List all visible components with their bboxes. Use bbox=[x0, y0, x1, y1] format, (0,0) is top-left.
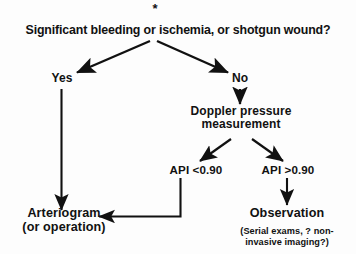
arteriogram-line-2: (or operation) bbox=[0, 221, 128, 235]
footnote-asterisk: * bbox=[0, 2, 310, 15]
arteriogram-line-1: Arteriogram bbox=[27, 206, 100, 220]
observation-caption-line-1: (Serial exams, ? non- bbox=[222, 226, 352, 237]
observation-node: Observation bbox=[224, 207, 350, 221]
edge-doppler-to-api-low bbox=[200, 139, 231, 161]
doppler-node: Doppler pressure measurement bbox=[170, 105, 312, 131]
arteriogram-node: Arteriogram (or operation) bbox=[0, 207, 128, 234]
observation-caption: (Serial exams, ? non- invasive imaging?) bbox=[222, 226, 352, 248]
branch-label-yes: Yes bbox=[34, 72, 90, 85]
decision-flowchart: * Significant bleeding or ischemia, or s… bbox=[0, 0, 356, 254]
root-question: Significant bleeding or ischemia, or sho… bbox=[0, 24, 356, 37]
edge-root-to-no bbox=[157, 41, 228, 73]
api-high-label: API >0.90 bbox=[238, 164, 338, 177]
doppler-line-1: Doppler pressure bbox=[191, 104, 292, 118]
branch-label-no: No bbox=[215, 72, 265, 85]
api-low-label: API <0.90 bbox=[146, 164, 246, 177]
edge-doppler-to-api-high bbox=[252, 139, 283, 161]
observation-caption-line-2: invasive imaging?) bbox=[222, 237, 352, 248]
doppler-line-2: measurement bbox=[170, 118, 312, 131]
edge-root-to-yes bbox=[77, 41, 150, 73]
observation-title: Observation bbox=[250, 206, 325, 220]
